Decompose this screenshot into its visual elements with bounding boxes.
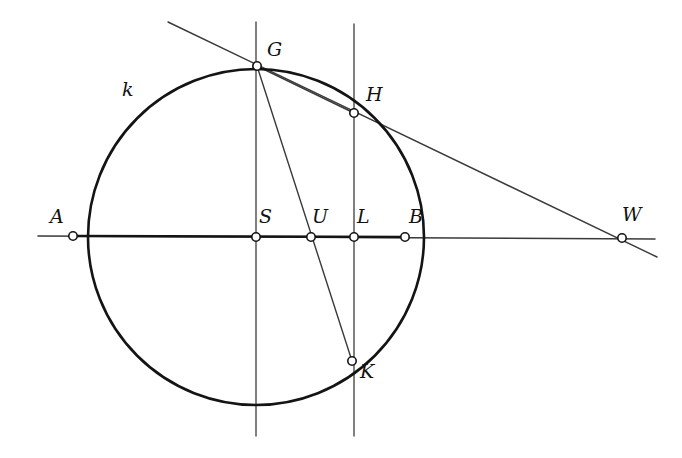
vertex-G [253,62,261,70]
geometry-canvas [0,0,682,458]
point-label-U: U [312,207,328,226]
vertex-L [350,233,358,241]
curve-label-k: k [122,80,134,99]
point-label-K: K [360,362,374,381]
vertex-U [307,233,315,241]
vertex-A [69,232,77,240]
chord-GH [257,66,354,113]
point-label-H: H [366,85,383,104]
vertex-S [252,233,260,241]
point-label-A: A [50,207,64,226]
vertex-W [618,234,626,242]
geometry-figure: A S U L B W G H K k [0,0,682,458]
point-label-W: W [622,205,642,224]
point-label-S: S [259,207,272,226]
point-label-L: L [357,207,370,226]
vertex-markers [69,62,626,365]
vertex-K [348,357,356,365]
vertex-B [401,233,409,241]
point-label-B: B [409,207,423,226]
point-label-G: G [267,40,282,59]
vertex-H [350,109,358,117]
